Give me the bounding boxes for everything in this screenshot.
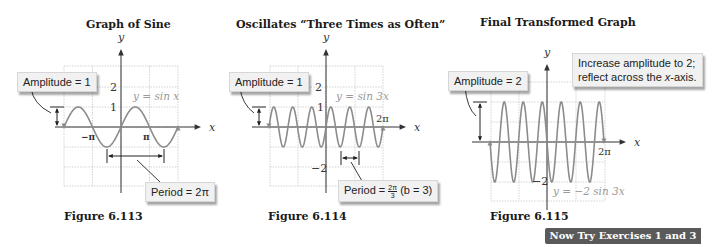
- transform-note-callout: Increase amplitude to 2; reflect across …: [572, 53, 703, 87]
- svg-text:y: y: [543, 46, 551, 59]
- panel-final-transformed: Final Transformed Graph xy−22πy = −2 sin…: [0, 0, 712, 247]
- note-text: reflect across the: [578, 71, 665, 83]
- note-text-suffix: -axis.: [670, 71, 696, 83]
- svg-text:x: x: [634, 136, 641, 149]
- svg-text:y = −2 sin 3x: y = −2 sin 3x: [552, 185, 625, 197]
- now-try-exercises-badge[interactable]: Now Try Exercises 1 and 3: [545, 228, 701, 244]
- neg-2-sine-3x-graph: xy−22πy = −2 sin 3x: [0, 0, 712, 247]
- note-line-2: reflect across the x-axis.: [578, 70, 697, 84]
- svg-text:−2: −2: [532, 175, 548, 188]
- svg-text:2π: 2π: [598, 146, 611, 157]
- amplitude-callout: Amplitude = 2: [448, 71, 528, 91]
- note-line-1: Increase amplitude to 2;: [578, 56, 697, 70]
- figure-label: Figure 6.115: [490, 210, 569, 223]
- amplitude-label: Amplitude = 2: [454, 75, 522, 87]
